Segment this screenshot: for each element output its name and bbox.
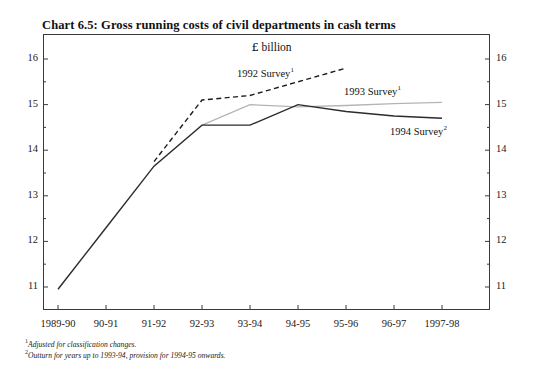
x-axis-ticks [58,305,442,310]
series-label-text: 1992 Survey [237,68,290,79]
y-tick-label: 11 [16,280,38,291]
x-tick-label: 93-94 [238,318,263,329]
series-label-text: 1993 Survey [344,86,397,97]
chart-container: Chart 6.5: Gross running costs of civil … [0,0,543,373]
y-tick-label: 12 [496,234,518,245]
y-tick-label: 13 [16,189,38,200]
footnote-text: Adjusted for classification changes. [28,340,136,349]
y-tick-label: 13 [496,189,518,200]
y-tick-label: 14 [16,143,38,154]
y-tick-label: 12 [16,234,38,245]
x-tick-label: 91-92 [142,318,167,329]
series-label-footnote-marker: 1 [290,66,294,74]
series-label-footnote-marker: 2 [443,124,447,132]
y-tick-label: 16 [16,52,38,63]
series-line-1994-survey [58,105,442,290]
x-tick-label: 1997-98 [425,318,460,329]
x-tick-label: 90-91 [94,318,119,329]
series-line-1993-survey [202,102,442,125]
series-label-1993-survey: 1993 Survey1 [344,84,401,97]
x-tick-label: 94-95 [286,318,311,329]
footnote-1: 1Adjusted for classification changes. [25,338,136,349]
y-tick-label: 15 [16,98,38,109]
y-axis-right-ticks [485,59,490,287]
x-tick-label: 96-97 [382,318,407,329]
y-tick-label: 16 [496,52,518,63]
x-tick-label: 92-93 [190,318,215,329]
chart-plot-svg [0,0,543,373]
x-tick-label: 1989-90 [41,318,76,329]
x-tick-label: 95-96 [334,318,359,329]
series-label-1992-survey: 1992 Survey1 [237,66,294,79]
series-label-1994-survey: 1994 Survey2 [390,124,447,137]
y-tick-label: 11 [496,280,518,291]
y-axis-left-ticks [43,59,48,287]
footnote-text: Outturn for years up to 1993-94, provisi… [28,351,226,360]
series-lines [58,68,442,289]
footnote-2: 2Outturn for years up to 1993-94, provis… [25,349,226,360]
y-tick-label: 14 [496,143,518,154]
series-label-text: 1994 Survey [390,126,443,137]
series-label-footnote-marker: 1 [397,84,401,92]
y-tick-label: 15 [496,98,518,109]
series-line-1992-survey [154,68,346,161]
